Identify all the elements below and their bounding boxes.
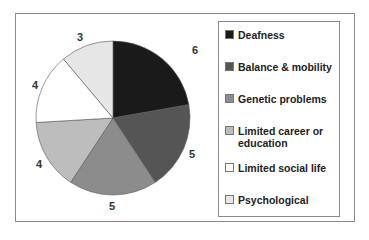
slice-label-genetic: 5: [109, 200, 115, 212]
legend-item-genetic: Genetic problems: [225, 93, 327, 105]
slice-label-balance: 5: [189, 148, 195, 160]
legend-item-psychological: Psychological: [225, 194, 309, 206]
slice-label-deafness: 6: [192, 44, 198, 56]
slice-label-career: 4: [36, 158, 42, 170]
legend-swatch: [225, 195, 234, 204]
legend-label: Deafness: [238, 29, 285, 41]
legend-item-balance: Balance & mobility: [225, 61, 332, 73]
legend-item-deafness: Deafness: [225, 29, 285, 41]
legend-label: Limited career or education: [238, 125, 323, 149]
legend-swatch: [225, 163, 234, 172]
legend-swatch: [225, 126, 234, 135]
legend-swatch: [225, 62, 234, 71]
legend-item-career: Limited career or education: [225, 125, 323, 149]
slice-label-psychological: 3: [77, 31, 83, 43]
legend-label: Psychological: [238, 194, 309, 206]
slice-label-social: 4: [32, 79, 38, 91]
legend-label: Genetic problems: [238, 93, 327, 105]
legend-label-line1: Limited career or: [238, 125, 323, 137]
legend: Deafness Balance & mobility Genetic prob…: [218, 21, 340, 217]
legend-label: Balance & mobility: [238, 61, 332, 73]
legend-label: Limited social life: [238, 162, 326, 174]
legend-swatch: [225, 30, 234, 39]
legend-label-line2: education: [238, 137, 288, 149]
legend-swatch: [225, 94, 234, 103]
legend-item-social: Limited social life: [225, 162, 326, 174]
